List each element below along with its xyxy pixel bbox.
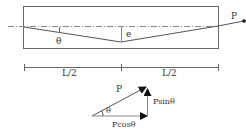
dimension-right-label: L/2 <box>162 68 177 78</box>
eccentricity-label: e <box>126 29 131 39</box>
tendon-force-line <box>218 21 244 26</box>
horizontal-component-label: Pcosθ <box>112 120 136 129</box>
beam-force-label: P <box>231 11 237 21</box>
triangle-force-label: P <box>116 84 122 94</box>
prestressed-beam-diagram: θ e P L/2 L/2 P θ Psinθ Pcosθ <box>0 0 246 139</box>
force-point-icon <box>242 19 246 23</box>
beam-angle-label: θ <box>56 36 61 46</box>
triangle-angle-label: θ <box>106 106 111 115</box>
vertical-component-label: Psinθ <box>153 97 175 106</box>
dimension-left-label: L/2 <box>62 68 77 78</box>
angle-arc <box>102 111 103 116</box>
